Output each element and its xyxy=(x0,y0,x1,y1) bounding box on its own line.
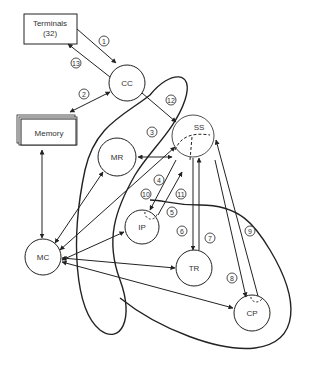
svg-text:9: 9 xyxy=(248,228,252,235)
node-cp: CP xyxy=(234,295,270,331)
node-ip: IP xyxy=(125,210,159,244)
svg-text:CP: CP xyxy=(246,309,257,318)
badge-7: 7 xyxy=(205,233,215,243)
terminals-label: Terminals xyxy=(33,19,67,28)
node-ss: SS xyxy=(172,115,214,160)
badge-10: 10 xyxy=(141,189,151,199)
terminals-box: Terminals (32) xyxy=(24,14,77,44)
boundary-loop-inner xyxy=(77,77,188,335)
node-tr: TR xyxy=(176,250,212,286)
svg-text:7: 7 xyxy=(208,235,212,242)
svg-text:3: 3 xyxy=(150,129,154,136)
svg-text:MR: MR xyxy=(111,153,124,162)
badge-8: 8 xyxy=(227,273,237,283)
svg-text:1: 1 xyxy=(102,38,106,45)
svg-text:4: 4 xyxy=(157,177,161,184)
svg-text:11: 11 xyxy=(177,191,184,198)
badge-6: 6 xyxy=(177,226,187,236)
badge-4: 4 xyxy=(154,175,164,185)
svg-text:5: 5 xyxy=(170,209,174,216)
system-diagram: Terminals (32) Memory CC SS MR IP MC TR xyxy=(0,0,324,365)
memory-label: Memory xyxy=(35,129,64,138)
svg-text:MC: MC xyxy=(37,253,50,262)
terminals-count: (32) xyxy=(43,29,58,38)
badge-2: 2 xyxy=(79,89,89,99)
memory-box: Memory xyxy=(17,115,77,145)
badge-13: 13 xyxy=(71,58,81,68)
svg-text:SS: SS xyxy=(194,123,205,132)
node-mr: MR xyxy=(98,138,136,176)
svg-text:6: 6 xyxy=(180,228,184,235)
badge-11: 11 xyxy=(176,189,186,199)
svg-text:TR: TR xyxy=(189,264,200,273)
node-cc: CC xyxy=(109,65,145,101)
svg-text:CC: CC xyxy=(121,79,133,88)
node-mc: MC xyxy=(25,239,61,275)
badge-5: 5 xyxy=(167,207,177,217)
svg-text:12: 12 xyxy=(167,97,175,104)
badge-12: 12 xyxy=(166,95,176,105)
badge-1: 1 xyxy=(99,36,109,46)
badge-3: 3 xyxy=(147,127,157,137)
svg-text:13: 13 xyxy=(72,60,80,67)
svg-text:8: 8 xyxy=(230,275,234,282)
svg-text:10: 10 xyxy=(142,191,150,198)
badge-9: 9 xyxy=(245,226,255,236)
svg-text:IP: IP xyxy=(138,223,146,232)
svg-text:2: 2 xyxy=(82,91,86,98)
connectors xyxy=(42,29,258,308)
